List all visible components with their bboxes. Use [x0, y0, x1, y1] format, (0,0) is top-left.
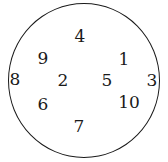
number-label: 2 [58, 72, 69, 89]
number-label: 4 [75, 28, 86, 45]
number-label: 7 [74, 118, 85, 135]
number-label: 3 [147, 72, 158, 89]
number-label: 6 [38, 96, 49, 113]
number-label: 5 [102, 72, 113, 89]
number-label: 10 [118, 94, 140, 111]
number-label: 8 [10, 71, 21, 88]
number-label: 1 [119, 51, 130, 68]
number-label: 9 [38, 50, 49, 67]
